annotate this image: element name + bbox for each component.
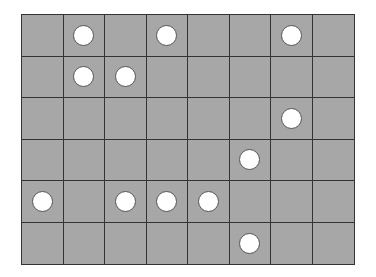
grid-cell-r1-c2[interactable] [105,57,147,99]
grid-cell-r4-c4[interactable] [188,181,230,223]
grid-cell-r0-c5[interactable] [230,15,272,57]
grid-cell-r1-c0[interactable] [22,57,64,99]
grid-cell-r0-c1[interactable] [64,15,106,57]
grid-cell-r4-c7[interactable] [313,181,355,223]
grid-cell-r5-c2[interactable] [105,223,147,265]
grid-cell-r1-c4[interactable] [188,57,230,99]
grid-cell-r3-c4[interactable] [188,140,230,182]
grid-cell-r5-c6[interactable] [271,223,313,265]
grid-cell-r2-c2[interactable] [105,98,147,140]
grid-cell-r4-c2[interactable] [105,181,147,223]
grid-cell-r3-c1[interactable] [64,140,106,182]
white-circle-token[interactable] [73,66,94,87]
grid-cell-r1-c3[interactable] [147,57,189,99]
white-circle-token[interactable] [239,149,260,170]
grid-cell-r5-c1[interactable] [64,223,106,265]
grid-cell-r3-c2[interactable] [105,140,147,182]
grid-cell-r0-c4[interactable] [188,15,230,57]
grid-cell-r0-c0[interactable] [22,15,64,57]
game-board-grid [21,14,355,265]
white-circle-token[interactable] [32,191,53,212]
white-circle-token[interactable] [281,108,302,129]
grid-cell-r2-c1[interactable] [64,98,106,140]
white-circle-token[interactable] [239,233,260,254]
white-circle-token[interactable] [156,191,177,212]
grid-cell-r4-c5[interactable] [230,181,272,223]
grid-cell-r0-c6[interactable] [271,15,313,57]
grid-cell-r5-c5[interactable] [230,223,272,265]
grid-cell-r2-c0[interactable] [22,98,64,140]
white-circle-token[interactable] [73,25,94,46]
grid-cell-r0-c3[interactable] [147,15,189,57]
grid-cell-r1-c6[interactable] [271,57,313,99]
grid-cell-r4-c1[interactable] [64,181,106,223]
grid-cell-r0-c7[interactable] [313,15,355,57]
grid-cell-r2-c6[interactable] [271,98,313,140]
white-circle-token[interactable] [281,25,302,46]
grid-cell-r2-c4[interactable] [188,98,230,140]
white-circle-token[interactable] [198,191,219,212]
grid-cell-r1-c1[interactable] [64,57,106,99]
white-circle-token[interactable] [115,191,136,212]
grid-cell-r2-c5[interactable] [230,98,272,140]
grid-cell-r3-c5[interactable] [230,140,272,182]
grid-cell-r5-c0[interactable] [22,223,64,265]
grid-cell-r3-c6[interactable] [271,140,313,182]
grid-cell-r4-c3[interactable] [147,181,189,223]
grid-cell-r5-c4[interactable] [188,223,230,265]
grid-cell-r3-c3[interactable] [147,140,189,182]
grid-cell-r2-c7[interactable] [313,98,355,140]
grid-cell-r1-c7[interactable] [313,57,355,99]
grid-cell-r4-c0[interactable] [22,181,64,223]
grid-cell-r1-c5[interactable] [230,57,272,99]
white-circle-token[interactable] [156,25,177,46]
grid-cell-r0-c2[interactable] [105,15,147,57]
grid-cell-r3-c7[interactable] [313,140,355,182]
grid-cell-r5-c3[interactable] [147,223,189,265]
grid-cell-r4-c6[interactable] [271,181,313,223]
grid-cell-r3-c0[interactable] [22,140,64,182]
grid-cell-r5-c7[interactable] [313,223,355,265]
white-circle-token[interactable] [115,66,136,87]
grid-cell-r2-c3[interactable] [147,98,189,140]
